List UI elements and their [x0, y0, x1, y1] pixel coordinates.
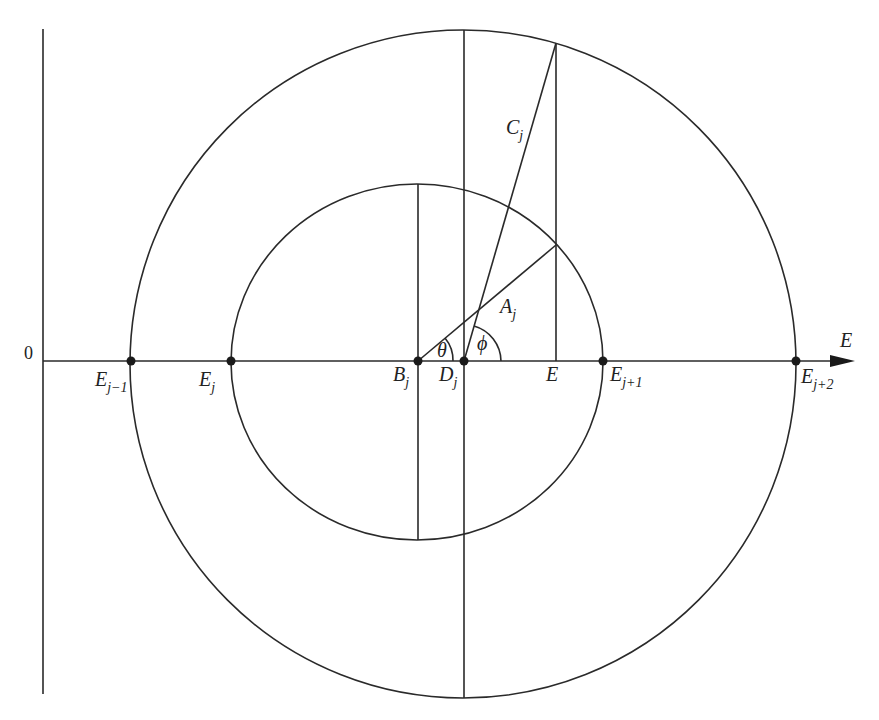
- label-cj: Cj: [506, 116, 523, 143]
- point-dj: [460, 357, 469, 366]
- point-ej+1: [599, 357, 608, 366]
- point-bj: [414, 357, 423, 366]
- point-ej-1: [127, 357, 136, 366]
- label-ej+1: Ej+1: [609, 363, 643, 390]
- label-ej+2: Ej+2: [800, 365, 834, 392]
- label-theta: θ: [437, 339, 447, 361]
- origin-label: 0: [24, 343, 33, 363]
- point-ej: [227, 357, 236, 366]
- axis-label-e: E: [839, 329, 852, 351]
- label-ej: Ej: [198, 368, 215, 395]
- point-ej+2: [792, 357, 801, 366]
- label-ej-1: Ej−1: [94, 368, 128, 395]
- label-aj: Aj: [498, 295, 516, 322]
- label-bj: Bj: [393, 363, 409, 390]
- label-dj: Dj: [438, 363, 457, 390]
- label-phi: ϕ: [477, 332, 487, 355]
- label-e: E: [545, 363, 558, 385]
- axis-arrowhead-icon: [830, 355, 855, 367]
- diagram-canvas: 0 E Ej−1 Ej Bj Dj E Ej+1 Ej+2 Aj Cj θ ϕ: [0, 0, 879, 720]
